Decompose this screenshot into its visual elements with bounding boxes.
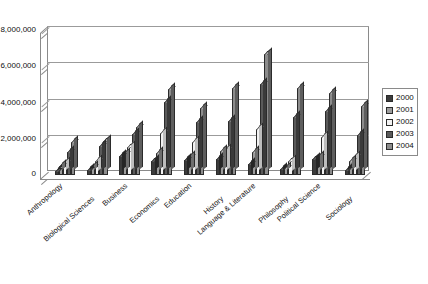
- bar-side-face: [131, 140, 135, 170]
- category-label: Biological Sciences: [0, 195, 97, 284]
- legend-label: 2001: [396, 106, 414, 114]
- bar-side-face: [187, 153, 191, 170]
- bar: [216, 159, 220, 175]
- bar-side-face: [259, 122, 263, 170]
- bar-side-face: [316, 152, 320, 170]
- legend-swatch-icon: [386, 143, 393, 150]
- bar-side-face: [195, 136, 199, 170]
- legend-swatch-icon: [386, 95, 393, 102]
- bar-side-face: [300, 81, 304, 170]
- legend-swatch-icon: [386, 131, 393, 138]
- bar-side-face: [268, 48, 272, 170]
- bar-side-face: [163, 127, 167, 170]
- bar: [184, 160, 188, 175]
- bar: [55, 171, 59, 175]
- bar-side-face: [135, 128, 139, 170]
- bar-side-face: [328, 104, 332, 170]
- bar-side-face: [219, 152, 223, 170]
- bar: [312, 159, 316, 175]
- bar-side-face: [263, 78, 267, 170]
- bar: [87, 170, 91, 175]
- bar-side-face: [139, 120, 143, 170]
- bar: [119, 156, 123, 175]
- bar: [248, 164, 252, 175]
- legend-label: 2002: [396, 118, 414, 126]
- legend-item[interactable]: 2000: [386, 92, 414, 104]
- legend-swatch-icon: [386, 107, 393, 114]
- bar-side-face: [199, 115, 203, 170]
- bar-side-face: [356, 150, 360, 170]
- bar-side-face: [74, 136, 78, 170]
- legend-item[interactable]: 2003: [386, 128, 414, 140]
- bar-side-face: [231, 114, 235, 170]
- bar: [151, 161, 155, 175]
- bar-side-face: [159, 147, 163, 170]
- legend-item[interactable]: 2002: [386, 116, 414, 128]
- legend-label: 2000: [396, 94, 414, 102]
- bar-side-face: [235, 81, 239, 170]
- bar-side-face: [70, 146, 74, 170]
- bar-side-face: [332, 86, 336, 170]
- bar-side-face: [255, 146, 259, 170]
- bar: [345, 170, 349, 175]
- bar-side-face: [171, 82, 175, 170]
- legend-label: 2003: [396, 130, 414, 138]
- legend-swatch-icon: [386, 119, 393, 126]
- legend-item[interactable]: 2004: [386, 140, 414, 152]
- bar-side-face: [167, 95, 171, 170]
- category-label: Business: [0, 182, 129, 284]
- bar-side-face: [324, 130, 328, 170]
- chart-root: 02,000,0004,000,0006,000,0008,000,000 An…: [0, 0, 428, 284]
- bar-side-face: [223, 145, 227, 170]
- bar-side-face: [364, 100, 368, 170]
- bar: [280, 169, 284, 175]
- bar-side-face: [107, 135, 111, 170]
- bar-side-face: [292, 154, 296, 170]
- legend-label: 2004: [396, 142, 414, 150]
- bar-side-face: [191, 150, 195, 170]
- bar-side-face: [203, 101, 207, 170]
- legend-item[interactable]: 2001: [386, 104, 414, 116]
- bar-side-face: [102, 139, 106, 170]
- bar-side-face: [320, 150, 324, 170]
- chart-legend: 20002001200220032004: [382, 88, 418, 156]
- bar-side-face: [296, 110, 300, 170]
- bar-side-face: [360, 129, 364, 170]
